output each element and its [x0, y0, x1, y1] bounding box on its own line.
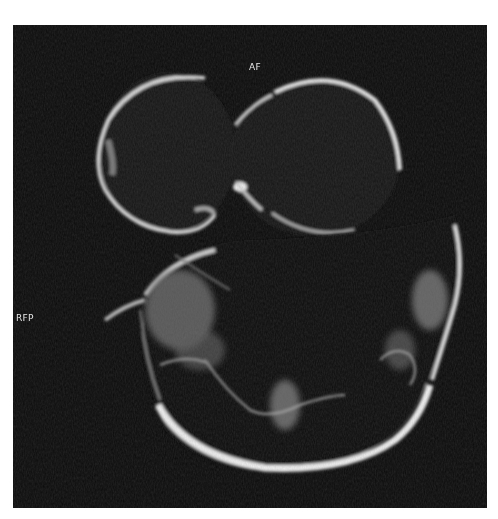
mri-image-frame: AF RFP [13, 25, 487, 508]
orientation-label-top: AF [249, 62, 261, 72]
scan-noise [13, 25, 487, 508]
orientation-label-left: RFP [16, 313, 34, 323]
mri-scan-graphic [13, 25, 487, 508]
